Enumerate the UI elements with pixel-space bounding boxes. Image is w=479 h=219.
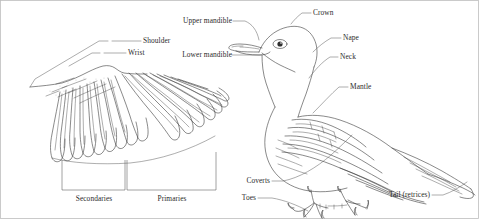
secondaries-bracket xyxy=(62,160,125,190)
label-shoulder: Shoulder xyxy=(143,37,170,44)
label-wrist: Wrist xyxy=(128,49,145,56)
label-upper-mandible: Upper mandible xyxy=(152,17,232,24)
bird-eye xyxy=(273,40,287,49)
label-tail: Tail (retrices) xyxy=(368,191,430,198)
wing-primary-shafts xyxy=(125,75,222,132)
wing-trailing-edge xyxy=(52,136,215,164)
bird-anatomy-figure: .s{fill:none;stroke:#3a3a3a;stroke-width… xyxy=(0,0,479,219)
figure-border xyxy=(1,1,479,219)
bird-breast-belly xyxy=(265,107,347,192)
bird-wing-covert-detail xyxy=(288,122,341,163)
leader-mantle xyxy=(313,87,348,113)
wing-leading-edge xyxy=(30,66,147,87)
primaries-bracket xyxy=(127,152,216,190)
shoulder-wrist-leaders xyxy=(30,41,141,87)
anatomy-linework: .s{fill:none;stroke:#3a3a3a;stroke-width… xyxy=(0,0,479,219)
bird-flank-lines xyxy=(276,140,307,174)
bird-legs-feet xyxy=(288,186,368,218)
wing-diagram xyxy=(30,41,229,190)
leader-upper-mandible xyxy=(233,21,259,40)
wing-covert-texture xyxy=(46,78,115,103)
label-mantle: Mantle xyxy=(350,83,371,90)
wing-secondaries xyxy=(51,76,149,162)
label-coverts: Coverts xyxy=(222,177,270,184)
leader-toes xyxy=(258,198,308,211)
label-nape: Nape xyxy=(343,34,359,41)
wing-primaries xyxy=(122,73,229,140)
label-crown: Crown xyxy=(313,9,334,16)
label-secondaries: Secondaries xyxy=(58,195,130,202)
bird-cheek-line xyxy=(262,53,295,72)
bird-wing-coverts xyxy=(282,119,392,192)
leader-neck xyxy=(309,57,338,78)
label-toes: Toes xyxy=(218,194,256,201)
label-neck: Neck xyxy=(340,53,356,60)
label-primaries: Primaries xyxy=(135,195,209,202)
label-lower-mandible: Lower mandible xyxy=(152,51,232,58)
bird-head-outline xyxy=(259,26,317,67)
bird-throat xyxy=(262,55,275,107)
bird-beak xyxy=(229,44,270,55)
leader-crown xyxy=(291,13,311,24)
wing-secondary-shafts xyxy=(55,80,125,150)
